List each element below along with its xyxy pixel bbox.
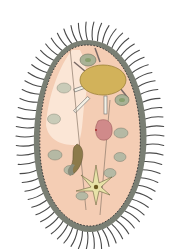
cilium [129, 57, 144, 66]
cilium [28, 73, 45, 80]
cilium [146, 135, 164, 136]
cilium [141, 90, 158, 95]
cilium [36, 205, 51, 214]
cilium [16, 127, 34, 128]
cilium [145, 153, 163, 155]
cilium [20, 170, 38, 174]
cilium [142, 98, 160, 102]
cilium [22, 90, 39, 95]
cilium [146, 126, 164, 128]
contractile-vacuole-pore [94, 185, 98, 189]
cilium [41, 211, 56, 222]
cilium [107, 227, 116, 243]
cilium [64, 29, 73, 45]
cilium [103, 230, 110, 247]
food-vacuole [48, 150, 62, 160]
cilium [144, 161, 162, 164]
food-vacuole [48, 114, 61, 124]
cilium [103, 26, 110, 43]
cilium [145, 117, 163, 119]
cilium [142, 170, 160, 174]
cilium [93, 232, 95, 249]
cilium [20, 98, 38, 102]
cilium [98, 231, 102, 249]
cilium [71, 26, 78, 43]
cilium [32, 199, 48, 207]
cilium [98, 23, 102, 41]
cilium [141, 178, 158, 183]
cilium [18, 162, 36, 165]
food-vacuole [57, 83, 71, 93]
cilium [86, 22, 88, 40]
cilium [132, 199, 148, 207]
cilium [135, 192, 152, 199]
cilium [138, 185, 155, 191]
cilium [28, 192, 45, 199]
red-dot [95, 129, 97, 131]
diagram-canvas [0, 0, 174, 249]
cilium [78, 231, 82, 249]
cilium [22, 178, 39, 183]
cilium [78, 23, 82, 41]
red-vesicle [96, 120, 112, 140]
cilium [125, 50, 139, 61]
cilium [16, 136, 34, 137]
cilium [25, 185, 42, 191]
cilium [36, 57, 51, 66]
food-vacuole-inner [119, 98, 125, 102]
food-vacuole-inner [85, 58, 91, 62]
cilium [138, 81, 155, 87]
cilium [92, 22, 94, 40]
macronucleus [80, 65, 126, 95]
food-vacuole [114, 153, 126, 162]
cilium [25, 81, 42, 87]
food-vacuole [76, 192, 88, 200]
cilium [86, 232, 88, 249]
cilium [132, 65, 148, 73]
cilium [16, 145, 34, 147]
cilium [17, 117, 35, 119]
food-vacuole [104, 169, 116, 178]
cilium [17, 153, 35, 155]
cilium [129, 205, 144, 214]
cilium [71, 230, 78, 247]
trichocyst [104, 96, 107, 114]
cilium [18, 108, 36, 111]
cilium [135, 73, 152, 80]
cilium [32, 65, 48, 73]
food-vacuole [114, 128, 128, 138]
cilium [146, 144, 164, 145]
ciliate-illustration [0, 0, 174, 249]
cilium [144, 108, 162, 111]
